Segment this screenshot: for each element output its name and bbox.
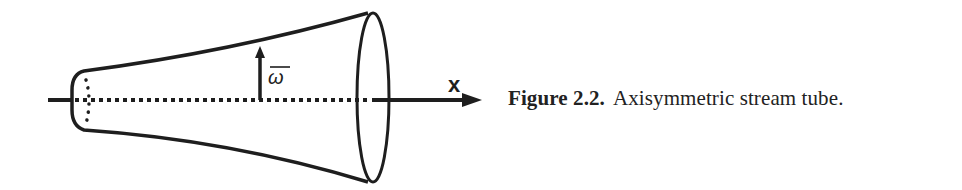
radius-arrowhead-icon (255, 46, 265, 58)
axis-label: x (448, 72, 461, 97)
figure-caption: Figure 2.2.Axisymmetric stream tube. (508, 86, 844, 111)
caption-text: Axisymmetric stream tube. (613, 86, 844, 110)
stream-tube-diagram: ω x (0, 0, 500, 190)
tube-bottom-wall (72, 110, 368, 182)
tube-outlet-ellipse (357, 13, 389, 182)
tube-top-wall (72, 13, 368, 90)
axis-arrowhead-icon (462, 93, 482, 107)
caption-label: Figure 2.2. (508, 86, 605, 110)
radius-label: ω (268, 66, 284, 88)
